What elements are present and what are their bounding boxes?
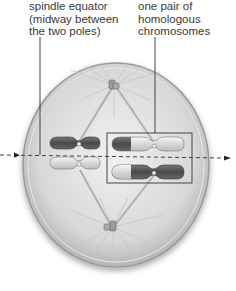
left-homolog-top [50, 137, 100, 149]
left-homolog-bottom [50, 157, 100, 169]
right-homolog-top [112, 137, 184, 151]
right-homolog-bottom [112, 165, 184, 179]
cell-diagram [0, 0, 236, 291]
arrow-right-icon [224, 156, 231, 161]
arrow-left-icon [14, 153, 20, 158]
